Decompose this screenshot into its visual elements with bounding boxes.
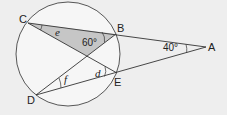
label-c: C <box>19 13 27 25</box>
angle-label-b: 60° <box>82 37 97 48</box>
label-e: E <box>114 76 121 88</box>
label-a: A <box>208 41 216 53</box>
angle-label-a: 40° <box>163 42 178 53</box>
circle-geometry-diagram: C B A E D 40° 60° e d f <box>0 0 227 115</box>
label-b: B <box>117 22 124 34</box>
angle-label-e: e <box>55 26 60 38</box>
label-d: D <box>27 94 35 106</box>
circle <box>16 2 120 106</box>
angle-label-d: d <box>95 67 101 79</box>
angle-arc-a <box>186 44 187 52</box>
